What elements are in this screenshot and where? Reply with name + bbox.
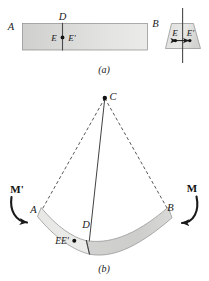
figure-container: A B D E E' E E' (a)	[0, 0, 209, 281]
bent-beam-right-half	[86, 207, 172, 255]
label-E-straight: E	[50, 33, 57, 43]
label-A-bent: A	[29, 204, 37, 215]
label-D-straight: D	[58, 11, 67, 22]
moment-right-arrow	[182, 197, 197, 224]
cross-section-dot-Eprime	[188, 39, 191, 42]
label-B-bent: B	[167, 202, 174, 213]
bent-beam-panel: C A B D EE' M' M	[10, 91, 198, 275]
radius-line-CD	[88, 98, 105, 253]
label-M: M	[187, 182, 198, 194]
label-Eprime-cross-section: E'	[186, 28, 195, 38]
caption-a: (a)	[98, 64, 110, 76]
label-Eprime-straight: E'	[67, 33, 76, 43]
label-A-straight: A	[7, 21, 15, 32]
label-C: C	[109, 91, 117, 102]
label-M-prime: M'	[10, 183, 23, 195]
fiber-point-dot-b	[72, 239, 76, 243]
center-of-curvature-dot	[103, 96, 107, 100]
straight-beam-body	[23, 24, 148, 51]
radius-line-CB	[105, 98, 171, 215]
label-B-straight: B	[152, 18, 159, 29]
moment-left-arrow	[11, 197, 27, 223]
moment-right-group: M	[182, 182, 198, 223]
caption-b: (b)	[98, 263, 110, 275]
fiber-point-dot-a	[61, 36, 65, 40]
radius-line-CA	[39, 98, 105, 215]
bent-beam-left-half	[38, 208, 90, 255]
straight-beam-panel: A B D E E' E E' (a)	[7, 8, 201, 76]
label-D-bent: D	[81, 219, 90, 230]
label-E-cross-section: E	[171, 28, 178, 38]
label-EEprime-bent: EE'	[54, 236, 70, 246]
beam-bending-figure: A B D E E' E E' (a)	[0, 0, 209, 281]
moment-left-group: M'	[10, 183, 27, 223]
cross-section-inset: E E'	[166, 8, 201, 63]
cross-section-dot-E	[174, 39, 177, 42]
